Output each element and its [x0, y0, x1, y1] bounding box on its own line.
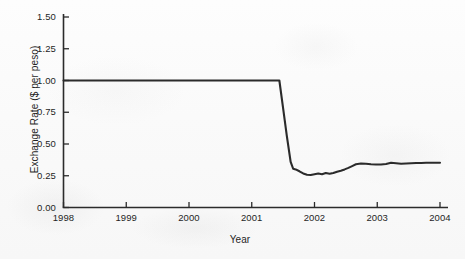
- x-axis-tick-label: 2001: [230, 212, 274, 223]
- exchange-rate-chart-figure: 0.000.250.500.751.001.251.50 19981999200…: [0, 0, 465, 259]
- x-axis-tick-label: 2000: [167, 212, 211, 223]
- x-axis-tick-label: 2004: [418, 212, 462, 223]
- x-axis-title: Year: [195, 234, 285, 245]
- x-axis-tick-label: 1998: [42, 212, 86, 223]
- x-axis-tick-label: 1999: [104, 212, 148, 223]
- x-axis-tick-marks: [64, 202, 441, 208]
- x-axis-tick-label: 2003: [355, 212, 399, 223]
- exchange-rate-line: [64, 81, 441, 175]
- x-axis-tick-label: 2002: [293, 212, 337, 223]
- y-axis-title: Exchange Rate ($ per peso): [29, 25, 40, 195]
- y-axis-tick-label: 1.50: [22, 11, 56, 22]
- y-axis-tick-marks: [64, 17, 70, 208]
